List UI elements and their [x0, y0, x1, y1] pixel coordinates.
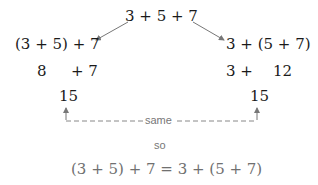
right-grouped-expression: 3 + (5 + 7) [226, 37, 311, 52]
top-expression: 3 + 5 + 7 [125, 9, 198, 24]
left-grouped-expression: (3 + 5) + 7 [15, 37, 100, 52]
same-label: same [145, 115, 172, 126]
left-step-sum: 8 [37, 64, 47, 79]
right-step-sum: 12 [273, 64, 292, 79]
so-label: so [154, 140, 166, 151]
left-step-remainder: + 7 [71, 64, 98, 79]
right-step-first: 3 + [226, 64, 253, 79]
right-result: 15 [250, 89, 269, 104]
conclusion-equation: (3 + 5) + 7 = 3 + (5 + 7) [71, 162, 262, 177]
diagram-connectors [0, 0, 318, 185]
left-result: 15 [59, 89, 78, 104]
left-split-arrow [96, 22, 128, 40]
